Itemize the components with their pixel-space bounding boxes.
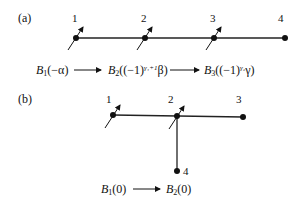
panel-a: (a) 1 2 3 4 B1(−α) B2((−1)γ₁+1β) B3((−1)… (18, 11, 288, 78)
sequence-term-3: B3((−1)γ₂γ) (204, 63, 255, 78)
node-label: 4 (278, 12, 284, 24)
node-2: 2 (168, 93, 184, 129)
node-1: 1 (105, 93, 120, 128)
panel-a-label: (a) (18, 11, 31, 25)
node-3: 3 (236, 93, 246, 120)
node-4: 4 (278, 12, 288, 41)
node-label: 3 (210, 12, 216, 24)
node-1: 1 (68, 12, 83, 50)
node-2: 2 (137, 12, 152, 50)
node-label: 4 (183, 165, 189, 177)
node-label: 1 (106, 93, 112, 105)
panel-b-label: (b) (18, 92, 32, 106)
spin-chain-diagram: (a) 1 2 3 4 B1(−α) B2((−1)γ₁+1β) B3((−1)… (0, 0, 303, 207)
spin-arrow-icon (105, 105, 120, 128)
sequence-term-1: B1(0) (101, 182, 126, 197)
panel-b: (b) 1 2 3 4 B1(0) B2(0) (18, 92, 246, 197)
node-label: 2 (141, 12, 147, 24)
site-dot (282, 35, 288, 41)
sequence-term-1: B1(−α) (36, 63, 68, 78)
sequence-term-2: B2((−1)γ₁+1β) (108, 63, 168, 78)
node-label: 1 (72, 12, 78, 24)
sequence-term-2: B2(0) (166, 182, 191, 197)
node-label: 2 (168, 93, 174, 105)
node-4: 4 (174, 165, 189, 177)
site-dot (174, 168, 180, 174)
node-3: 3 (206, 12, 221, 50)
site-dot (240, 114, 246, 120)
node-label: 3 (236, 93, 242, 105)
